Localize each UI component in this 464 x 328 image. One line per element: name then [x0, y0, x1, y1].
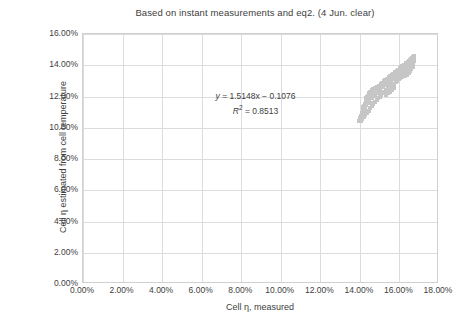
gridline-horizontal — [83, 159, 437, 160]
x-axis-tick-labels: 0.00%2.00%4.00%6.00%8.00%10.00%12.00%14.… — [82, 285, 438, 301]
y-tick-label: 14.00% — [30, 59, 78, 69]
y-tick-label: 4.00% — [30, 216, 78, 226]
scatter-chart: Based on instant measurements and eq2. (… — [0, 0, 464, 328]
gridline-horizontal — [83, 65, 437, 66]
x-tick-label: 18.00% — [415, 285, 461, 295]
x-axis-title: Cell η, measured — [82, 302, 438, 312]
scatter-point — [411, 64, 415, 68]
gridline-vertical — [241, 34, 242, 282]
gridline-horizontal — [83, 190, 437, 191]
gridline-vertical — [123, 34, 124, 282]
scatter-point — [412, 54, 416, 58]
y-tick-label: 12.00% — [30, 91, 78, 101]
y-axis-tick-labels: 0.00%2.00%4.00%6.00%8.00%10.00%12.00%14.… — [28, 33, 78, 283]
y-axis-title-anchor: Cell η estimated from cell temperature — [22, 0, 23, 1]
scatter-point — [392, 86, 396, 90]
trendline-r-squared: R2 = 0.8513 — [193, 102, 318, 117]
gridline-horizontal — [83, 128, 437, 129]
plot-area — [82, 33, 438, 283]
y-tick-label: 6.00% — [30, 184, 78, 194]
chart-title: Based on instant measurements and eq2. (… — [60, 7, 450, 18]
gridline-vertical — [320, 34, 321, 282]
trendline-annotation: y = 1.5148x − 0.1076 R2 = 0.8513 — [193, 90, 318, 117]
y-tick-label: 10.00% — [30, 122, 78, 132]
r2-body: = 0.8513 — [245, 106, 278, 116]
gridline-horizontal — [83, 253, 437, 254]
y-tick-label: 2.00% — [30, 247, 78, 257]
gridline-horizontal — [83, 34, 437, 35]
scatter-point — [364, 100, 368, 104]
equation-body: = 1.5148x − 0.1076 — [222, 91, 295, 101]
gridline-horizontal — [83, 222, 437, 223]
y-tick-label: 8.00% — [30, 153, 78, 163]
scatter-point — [369, 101, 373, 105]
gridline-vertical — [202, 34, 203, 282]
gridline-vertical — [360, 34, 361, 282]
gridline-vertical — [162, 34, 163, 282]
y-tick-label: 16.00% — [30, 28, 78, 38]
y-axis-title: Cell η estimated from cell temperature — [58, 32, 68, 282]
gridline-vertical — [281, 34, 282, 282]
gridline-vertical — [83, 34, 84, 282]
trendline-equation: y = 1.5148x − 0.1076 — [193, 90, 318, 102]
